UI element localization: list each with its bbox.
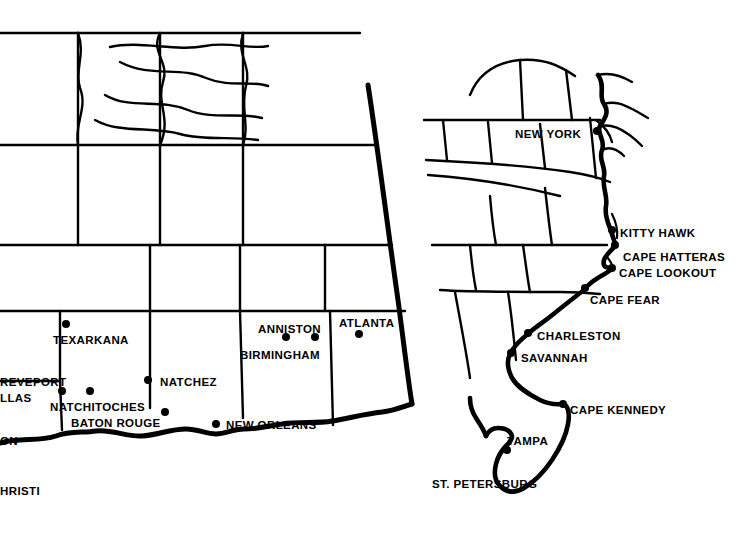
city-dot-kitty-hawk — [608, 226, 616, 234]
city-dot-natchez — [144, 376, 152, 384]
map-label: CAPE FEAR — [590, 295, 660, 307]
state-borders — [0, 33, 405, 430]
city-dot-cape-fear — [581, 284, 589, 292]
map-label: CAPE KENNEDY — [570, 405, 666, 417]
map-label: NEW YORK — [515, 129, 581, 141]
map-label: TEXARKANA — [53, 335, 129, 347]
map-label: CAPE LOOKOUT — [619, 268, 716, 280]
map-label: KITTY HAWK — [620, 228, 695, 240]
city-dot-cape-kennedy — [559, 400, 567, 408]
city-dot-new-york — [593, 127, 601, 135]
map-label: CAPE HATTERAS — [623, 252, 725, 264]
city-dot-cape-lookout — [608, 264, 616, 272]
map-label: REVEPORT — [0, 377, 66, 389]
map-label: LLAS — [0, 393, 32, 405]
city-dot-texarkana — [62, 320, 70, 328]
river-boundaries — [77, 33, 268, 145]
city-dot-charleston — [524, 329, 532, 337]
city-dot-baton-rouge — [161, 408, 169, 416]
city-dot-cape-hatteras — [611, 241, 619, 249]
map-label: ATLANTA — [339, 318, 394, 330]
map-label: CHARLESTON — [537, 331, 621, 343]
map-label: BIRMINGHAM — [240, 350, 320, 362]
map-label: ON — [0, 436, 18, 448]
map-label: ST. PETERSBURG — [432, 479, 537, 491]
map-label: TAMPA — [507, 436, 548, 448]
map-canvas: NEW YORKKITTY HAWKCAPE HATTERASCAPE LOOK… — [0, 0, 746, 537]
city-dot-new-orleans — [212, 420, 220, 428]
map-label: NATCHITOCHES — [50, 402, 145, 414]
city-dot-natchitoches — [86, 387, 94, 395]
map-label: BATON ROUGE — [71, 418, 161, 430]
city-dot-savannah — [507, 349, 515, 357]
city-dot-atlanta — [355, 330, 363, 338]
map-label: ANNISTON — [258, 324, 321, 336]
map-label: NEW ORLEANS — [226, 420, 317, 432]
map-label: NATCHEZ — [160, 377, 217, 389]
map-label: SAVANNAH — [521, 353, 588, 365]
map-label: HRISTI — [0, 486, 40, 498]
